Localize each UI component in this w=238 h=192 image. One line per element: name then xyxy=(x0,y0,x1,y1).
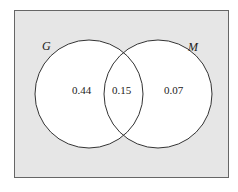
region-g-only: 0.44 xyxy=(72,84,92,96)
region-intersection: 0.15 xyxy=(112,84,132,96)
set-label-m: M xyxy=(187,40,199,54)
set-label-g: G xyxy=(42,39,51,53)
venn-diagram: G M 0.44 0.15 0.07 xyxy=(0,0,238,192)
region-m-only: 0.07 xyxy=(164,84,184,96)
